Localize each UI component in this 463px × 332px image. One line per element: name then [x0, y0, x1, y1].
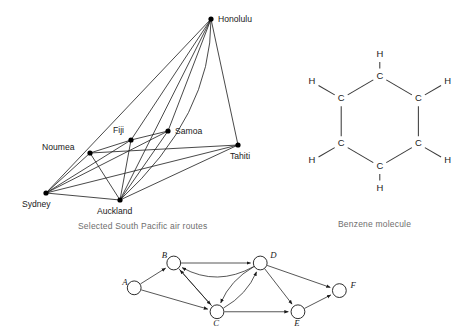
map-label-fiji: Fiji — [113, 125, 124, 135]
digraph-edge-a-b — [140, 268, 165, 284]
benzene-carbon-c4: C — [376, 160, 383, 171]
map-route-sydney-noumea — [46, 153, 90, 193]
map-node-noumea[interactable] — [87, 150, 92, 155]
digraph-edge-c-d — [223, 272, 256, 308]
benzene-atom-group: CCCCCCHHHHHH — [309, 48, 452, 193]
benzene-bond-c1-c2 — [386, 80, 412, 95]
map-route-sydney-samoa — [46, 131, 168, 193]
benzene-hydrogen-h3: H — [444, 154, 451, 165]
digraph-node-A[interactable] — [127, 281, 141, 295]
map-route-honolulu-fiji — [131, 19, 211, 140]
map-label-honolulu: Honolulu — [218, 14, 252, 24]
map-node-sydney[interactable] — [43, 190, 48, 195]
benzene-carbon-c2: C — [415, 92, 422, 103]
digraph-label-F: F — [349, 280, 356, 290]
map-node-auckland[interactable] — [117, 197, 122, 202]
digraph-edge-a-c — [141, 290, 207, 309]
benzene-bond-c3-h3 — [425, 148, 441, 157]
digraph-node-F[interactable] — [332, 284, 346, 298]
digraph-node-group — [127, 256, 346, 319]
benzene-carbon-c1: C — [376, 70, 383, 81]
digraph-edge-d-b-curved — [182, 267, 254, 277]
benzene-hydrogen-h5: H — [309, 154, 316, 165]
benzene-bond-c4-c5 — [348, 148, 374, 163]
digraph-edge-d-e — [265, 269, 292, 304]
map-label-noumea: Noumea — [42, 142, 75, 152]
benzene-bond-c2-h2 — [425, 85, 441, 94]
south-pacific-map-panel: HonoluluSamoaFijiTahitiNoumeaSydneyAuckl… — [0, 0, 300, 240]
map-route-sydney-auckland — [46, 193, 120, 200]
digraph-label-B: B — [162, 250, 168, 260]
digraph-label-D: D — [269, 250, 277, 260]
benzene-svg: CCCCCCHHHHHH — [290, 45, 463, 205]
benzene-panel: CCCCCCHHHHHH — [290, 45, 463, 240]
directed-graph-svg: ABCDEF — [95, 240, 385, 332]
map-node-honolulu[interactable] — [208, 16, 213, 21]
map-node-fiji[interactable] — [128, 137, 133, 142]
benzene-hydrogen-h4: H — [376, 182, 383, 193]
benzene-caption: Benzene molecule — [338, 219, 411, 229]
digraph-edge-group — [140, 263, 330, 312]
benzene-carbon-c5: C — [338, 137, 345, 148]
south-pacific-map-svg: HonoluluSamoaFijiTahitiNoumeaSydneyAuckl… — [0, 0, 300, 240]
map-route-noumea-auckland — [90, 153, 120, 200]
map-node-tahiti[interactable] — [235, 142, 240, 147]
digraph-edge-c-b — [180, 270, 212, 306]
benzene-hydrogen-h6: H — [309, 75, 316, 86]
map-node-group — [43, 16, 240, 202]
map-route-honolulu-sydney — [46, 19, 211, 193]
benzene-hydrogen-h2: H — [444, 75, 451, 86]
map-label-auckland: Auckland — [97, 206, 133, 216]
digraph-label-A: A — [121, 277, 128, 287]
map-label-sydney: Sydney — [22, 199, 51, 209]
digraph-label-C: C — [213, 318, 219, 328]
digraph-node-B[interactable] — [167, 256, 181, 270]
digraph-node-D[interactable] — [253, 256, 267, 270]
map-node-samoa[interactable] — [165, 128, 170, 133]
benzene-hydrogen-h1: H — [376, 48, 383, 59]
benzene-bond-c3-c4 — [386, 148, 412, 163]
digraph-node-C[interactable] — [210, 305, 224, 319]
map-label-samoa: Samoa — [175, 126, 202, 136]
benzene-bond-c6-c1 — [348, 80, 374, 95]
map-route-auckland-tahiti — [120, 145, 238, 200]
map-label-tahiti: Tahiti — [230, 151, 250, 161]
map-route-honolulu-tahiti — [211, 19, 238, 145]
digraph-edge-d-c — [221, 267, 254, 303]
benzene-carbon-c3: C — [415, 137, 422, 148]
figure-root: HonoluluSamoaFijiTahitiNoumeaSydneyAuckl… — [0, 0, 463, 332]
map-caption: Selected South Pacific air routes — [78, 221, 207, 231]
benzene-bond-c5-h5 — [319, 148, 335, 157]
map-route-honolulu-auckland — [120, 19, 211, 200]
digraph-label-group: ABCDEF — [121, 250, 356, 328]
digraph-node-E[interactable] — [291, 305, 305, 319]
map-label-group: HonoluluSamoaFijiTahitiNoumeaSydneyAuckl… — [22, 14, 252, 216]
digraph-edge-e-f — [305, 295, 331, 308]
benzene-carbon-c6: C — [338, 92, 345, 103]
digraph-label-E: E — [293, 318, 300, 328]
benzene-bond-c6-h6 — [319, 85, 335, 94]
directed-graph-panel: ABCDEF — [95, 240, 385, 332]
